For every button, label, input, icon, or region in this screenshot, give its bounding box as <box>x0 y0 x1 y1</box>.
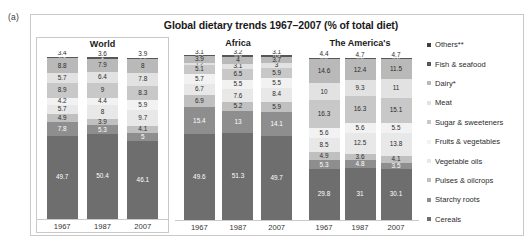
bar-segment: 6.4 <box>87 72 118 83</box>
bar-column: 3.91.187.88.35.99.74.1546.1 <box>127 51 158 219</box>
segment-value: 5.9 <box>138 102 147 108</box>
legend-item[interactable]: Others** <box>427 35 523 54</box>
legend-item-label: Others** <box>435 40 464 49</box>
segment-value: 7.8 <box>58 126 67 132</box>
bar-segment: 10 <box>309 83 340 100</box>
legend-item[interactable]: Cereals <box>427 210 523 229</box>
segment-value: 8.9 <box>58 87 67 93</box>
segment-value: 5.3 <box>98 127 107 133</box>
bar-segment: 30.1 <box>381 169 412 220</box>
panels-container: World 3.40.98.85.78.94.25.74.97.849.73.6… <box>36 37 421 233</box>
segment-value: 6.5 <box>234 71 243 77</box>
bar-segment: 9.7 <box>127 110 158 126</box>
bar-column: 3.20.943.16.55.57.65.21351.3 <box>222 50 253 220</box>
segment-value: 30.1 <box>390 191 402 197</box>
axis-year-label: 1967 <box>47 220 78 232</box>
segment-value: 14.6 <box>318 68 330 74</box>
segment-value: 4.4 <box>98 98 107 104</box>
legend-item-label: Vegetable oils <box>435 157 482 166</box>
segment-value: 46.1 <box>137 177 149 183</box>
segment-value: 51.3 <box>232 173 244 179</box>
chart-frame: Global dietary trends 1967–2007 (% of to… <box>30 14 524 236</box>
segment-value: 11 <box>393 85 400 91</box>
bar-segment: 5.5 <box>261 78 292 87</box>
legend-item[interactable]: Dairy* <box>427 74 523 93</box>
bar-segment: 5.5 <box>222 80 253 89</box>
segment-value: 16.3 <box>318 111 330 117</box>
segment-value: 16.3 <box>354 106 366 112</box>
bar-segment: 5.6 <box>309 128 340 138</box>
segment-value: 9.3 <box>356 85 365 91</box>
legend-item[interactable]: Vegetable oils <box>427 151 523 170</box>
panel-world: World 3.40.98.85.78.94.25.74.97.849.73.6… <box>36 37 169 233</box>
bar-segment: 11.5 <box>381 59 412 79</box>
legend-item-label: Meat <box>435 98 452 107</box>
bar-segment: 49.7 <box>261 136 292 220</box>
bar-segment: 6.9 <box>184 95 215 107</box>
bar-segment: 4.4 <box>309 50 340 57</box>
segment-value: 5.7 <box>58 106 67 112</box>
segment-value: 49.6 <box>193 174 205 180</box>
bar-segment: 5.7 <box>184 74 215 84</box>
bar-segment: 9 <box>87 83 118 98</box>
bar-column: 3.40.98.85.78.94.25.74.97.849.7 <box>47 51 78 219</box>
legend-item[interactable]: Fish & seafood <box>427 54 523 73</box>
segment-value: 5.1 <box>195 66 204 72</box>
bar-segment: 49.6 <box>184 134 215 220</box>
segment-value: 4.8 <box>356 161 365 167</box>
legend-item-label: Dairy* <box>435 79 456 88</box>
segment-value: 4.9 <box>58 115 67 121</box>
legend-item-label: Starchy roots <box>435 195 480 204</box>
segment-value: 8.4 <box>272 91 281 97</box>
bar-segment: 16.3 <box>345 96 376 123</box>
segment-value: 11.5 <box>390 66 402 72</box>
segment-value: 5 <box>141 134 145 140</box>
axis-year-label: 1987 <box>345 221 376 233</box>
legend-item[interactable]: Sugar & sweeteners <box>427 113 523 132</box>
bar-segment: 8 <box>87 105 118 118</box>
legend-swatch-icon <box>427 140 431 144</box>
bar-segment: 5.1 <box>184 65 215 74</box>
bar-segment: 31 <box>345 168 376 220</box>
segment-value: 15.4 <box>193 118 205 124</box>
segment-value: 50.4 <box>96 173 108 179</box>
legend-item[interactable]: Starchy roots <box>427 190 523 209</box>
segment-value: 13 <box>234 119 241 125</box>
legend-item[interactable]: Fruits & vegetables <box>427 132 523 151</box>
legend-swatch-icon <box>427 159 431 163</box>
legend-item-label: Cereals <box>435 215 461 224</box>
bar-segment: 7.8 <box>127 73 158 86</box>
legend-swatch-icon <box>427 178 431 182</box>
chart-title: Global dietary trends 1967–2007 (% of to… <box>101 19 461 31</box>
segment-value: 9.7 <box>138 115 147 121</box>
bar-segment: 29.8 <box>309 169 340 220</box>
legend-item[interactable]: Meat <box>427 93 523 112</box>
axis-year-label: 1987 <box>222 221 253 233</box>
panel-title-africa: Africa <box>175 37 301 50</box>
legend-item[interactable]: Pulses & oilcrops <box>427 171 523 190</box>
bar-segment: 14.6 <box>309 59 340 84</box>
legend-item-label: Fruits & vegetables <box>435 137 500 146</box>
axis-americas: 196719872007 <box>301 220 419 233</box>
segment-value: 7.9 <box>98 62 107 68</box>
bar-column: 3.10.53.91.25.15.76.76.915.449.6 <box>184 50 215 220</box>
axis-africa: 196719872007 <box>175 220 301 233</box>
bar-segment: 5.7 <box>47 73 78 83</box>
segment-value: 12.4 <box>354 67 366 73</box>
segment-value: 5.6 <box>356 125 365 131</box>
legend-swatch-icon <box>427 120 431 124</box>
bar-segment: 16.3 <box>309 100 340 128</box>
bar-segment: 4.7 <box>381 50 412 58</box>
bar-segment: 8.3 <box>127 86 158 100</box>
bar-segment: 6.7 <box>184 84 215 96</box>
legend-item-label: Fish & seafood <box>435 60 486 69</box>
bar-segment: 7.6 <box>222 89 253 102</box>
legend-swatch-icon <box>427 101 431 105</box>
bar-segment: 5 <box>127 133 158 141</box>
bar-segment: 5.9 <box>261 102 292 112</box>
segment-value: 49.7 <box>270 175 282 181</box>
bar-column: 4.70.812.49.316.35.612.53.64.831 <box>345 50 376 220</box>
axis-year-label: 1987 <box>87 220 118 232</box>
legend-swatch-icon <box>427 198 431 202</box>
segment-value: 4.9 <box>320 153 329 159</box>
